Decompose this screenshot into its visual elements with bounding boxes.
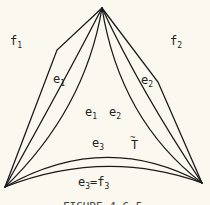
- tilde-accent: ~: [130, 132, 136, 142]
- label-e1-prime: e1: [85, 105, 97, 121]
- triangle-diagram: f1 f2 e1 e2 e1 e2 e3 T ~ e3=f3 FIGURE 4.…: [0, 0, 210, 205]
- label-e1: e1: [53, 72, 65, 88]
- label-e2: e2: [141, 73, 153, 89]
- label-e3-equals-f3: e3=f3: [78, 175, 110, 191]
- edge-e1: [5, 8, 102, 187]
- label-e3-prime: e3: [92, 136, 104, 152]
- edge-f2: [102, 8, 202, 183]
- edge-e2-prime: [102, 8, 202, 183]
- label-f1: f1: [10, 34, 22, 50]
- label-f2: f2: [170, 34, 182, 50]
- label-e2-prime: e2: [109, 105, 121, 121]
- figure-caption: FIGURE 4.6.5: [63, 200, 142, 205]
- edge-e2: [102, 8, 202, 183]
